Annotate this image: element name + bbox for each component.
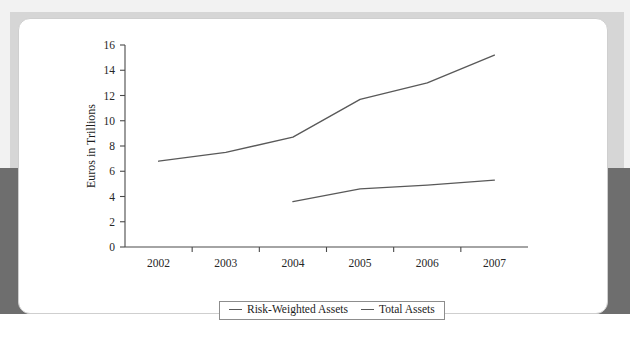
legend-label: Risk-Weighted Assets <box>247 304 348 316</box>
legend-item-total-assets: Total Assets <box>361 304 435 316</box>
y-tick-label: 2 <box>109 216 115 228</box>
scan-artifact-text <box>150 0 480 11</box>
legend-label: Total Assets <box>379 304 435 316</box>
series-line-risk-weighted-assets <box>293 180 495 202</box>
x-tick-label: 2002 <box>147 257 170 269</box>
legend-item-risk-weighted-assets: Risk-Weighted Assets <box>229 304 348 316</box>
y-tick-label: 0 <box>109 241 115 253</box>
legend-line-icon <box>229 309 242 310</box>
y-axis: 0246810121416 <box>104 39 126 253</box>
y-tick-label: 4 <box>109 191 115 203</box>
y-axis-title: Euros in Trillions <box>84 104 98 188</box>
y-tick-label: 14 <box>104 64 116 76</box>
y-tick-label: 10 <box>104 115 116 127</box>
x-axis: 200220032004200520062007 <box>125 247 528 269</box>
x-tick-label: 2003 <box>214 257 237 269</box>
plot-area: 0246810121416 200220032004200520062007 E… <box>19 19 607 313</box>
series-line-total-assets <box>159 55 495 161</box>
x-tick-label: 2005 <box>349 257 372 269</box>
chart-legend: Risk-Weighted Assets Total Assets <box>219 301 445 320</box>
series-lines <box>159 55 495 202</box>
y-tick-label: 8 <box>109 140 115 152</box>
x-tick-label: 2004 <box>281 257 304 269</box>
line-chart: 0246810121416 200220032004200520062007 E… <box>19 19 607 313</box>
y-tick-label: 12 <box>104 90 116 102</box>
y-tick-label: 16 <box>104 39 116 51</box>
x-tick-label: 2007 <box>483 257 506 269</box>
x-tick-label: 2006 <box>416 257 439 269</box>
legend-line-icon <box>361 309 374 310</box>
y-axis-title-text: Euros in Trillions <box>84 104 98 188</box>
chart-card: 0246810121416 200220032004200520062007 E… <box>18 18 608 314</box>
y-tick-label: 6 <box>109 165 115 177</box>
